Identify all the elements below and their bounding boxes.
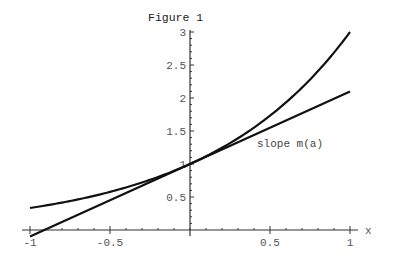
- y-tick-label: 3: [179, 27, 186, 39]
- slope-annotation: slope m(a): [257, 138, 323, 150]
- y-tick-label: 0.5: [166, 192, 186, 204]
- x-tick-label: -0.5: [97, 237, 123, 249]
- x-tick-label: 0.5: [260, 237, 280, 249]
- y-tick-label: 2.5: [166, 60, 186, 72]
- x-tick-label: 1: [347, 237, 354, 249]
- y-tick-label: 1.5: [166, 126, 186, 138]
- x-axis-label: x: [365, 225, 372, 237]
- x-tick-label: -1: [23, 237, 37, 249]
- y-tick-label: 2: [179, 93, 186, 105]
- chart: Figure 1 -1-0.50.51 0.511.522.53 x slope…: [0, 0, 393, 260]
- axes: [22, 30, 358, 236]
- chart-title: Figure 1: [148, 11, 203, 24]
